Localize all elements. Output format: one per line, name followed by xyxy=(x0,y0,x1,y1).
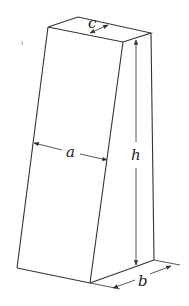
stray-mark xyxy=(22,41,23,45)
label-c: c xyxy=(88,14,97,32)
dimension-c: c xyxy=(88,14,108,33)
prism-diagram: c a h b xyxy=(0,0,189,306)
label-a: a xyxy=(66,143,75,161)
dimension-h: h xyxy=(131,40,141,265)
top-face xyxy=(48,17,151,42)
label-h: h xyxy=(131,146,141,164)
label-b: b xyxy=(138,272,148,290)
dimension-a: a xyxy=(34,143,107,161)
dimension-b: b xyxy=(90,260,180,290)
